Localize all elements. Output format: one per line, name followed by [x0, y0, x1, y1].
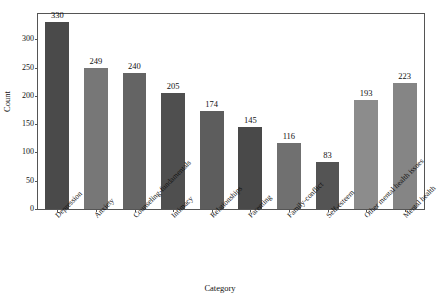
bar-group[interactable]: 249 [84, 14, 108, 209]
bar-value-label: 240 [109, 62, 161, 71]
bar[interactable] [45, 22, 69, 209]
bar-value-label: 174 [186, 100, 238, 109]
bar-group[interactable]: 174 [200, 14, 224, 209]
bar-group[interactable]: 145 [238, 14, 262, 209]
y-axis-tick-mark [35, 209, 38, 210]
bar-value-label: 83 [302, 151, 354, 160]
bar-group[interactable]: 330 [45, 14, 69, 209]
bar-value-label: 205 [147, 82, 199, 91]
bar[interactable] [200, 111, 224, 209]
bar[interactable] [277, 143, 301, 209]
bar-value-label: 330 [31, 11, 83, 20]
bar[interactable] [238, 127, 262, 209]
bars-container: 33024924020517414511683193223 [38, 14, 424, 209]
y-axis-title: Count [2, 91, 12, 112]
bar[interactable] [354, 100, 378, 209]
plot-area: 050100150200250300 330249240205174145116… [37, 13, 425, 210]
x-axis-tick-labels: DepressionAnxietyCounseling-fundamentals… [37, 212, 425, 280]
bar-chart-figure: Count 050100150200250300 330249240205174… [0, 0, 440, 303]
bar-value-label: 116 [263, 132, 315, 141]
bar-value-label: 145 [224, 116, 276, 125]
bar-group[interactable]: 193 [354, 14, 378, 209]
bar[interactable] [123, 73, 147, 209]
bar-group[interactable]: 240 [123, 14, 147, 209]
bar[interactable] [84, 68, 108, 209]
bar-value-label: 193 [340, 89, 392, 98]
bar-group[interactable]: 116 [277, 14, 301, 209]
x-axis-title: Category [0, 283, 440, 293]
bar-value-label: 223 [379, 72, 431, 81]
